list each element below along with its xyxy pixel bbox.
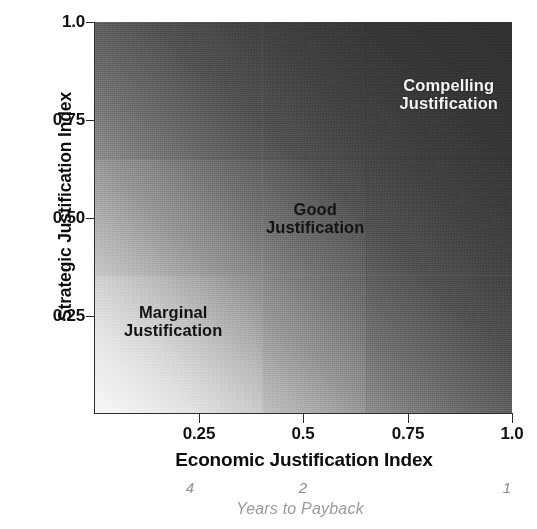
- y-axis-title: Strategic Justification Index: [55, 42, 76, 372]
- payback-axis-title: Years to Payback: [150, 500, 450, 518]
- scan-grain-texture: [95, 22, 512, 413]
- x-tick-mark-05: [303, 414, 304, 423]
- x-axis-title: Economic Justification Index: [95, 449, 513, 471]
- payback-tick-4: 4: [165, 479, 215, 496]
- payback-tick-1: 1: [482, 479, 532, 496]
- justification-matrix-chart: Compelling Justification Good Justificat…: [0, 0, 537, 529]
- y-tick-mark-1: [86, 22, 95, 23]
- x-tick-label-1: 1.0: [477, 424, 537, 444]
- x-tick-mark-025: [199, 414, 200, 423]
- y-tick-mark-075: [86, 120, 95, 121]
- y-tick-mark-050: [86, 218, 95, 219]
- y-tick-label-1: 1.0: [62, 12, 85, 32]
- payback-tick-2: 2: [278, 479, 328, 496]
- x-tick-label-075: 0.75: [373, 424, 443, 444]
- plot-area: Compelling Justification Good Justificat…: [95, 22, 512, 413]
- x-tick-mark-075: [408, 414, 409, 423]
- x-tick-label-05: 0.5: [268, 424, 338, 444]
- x-axis-line: [95, 413, 513, 414]
- y-tick-mark-025: [86, 316, 95, 317]
- x-tick-mark-1: [512, 414, 513, 423]
- x-tick-label-025: 0.25: [164, 424, 234, 444]
